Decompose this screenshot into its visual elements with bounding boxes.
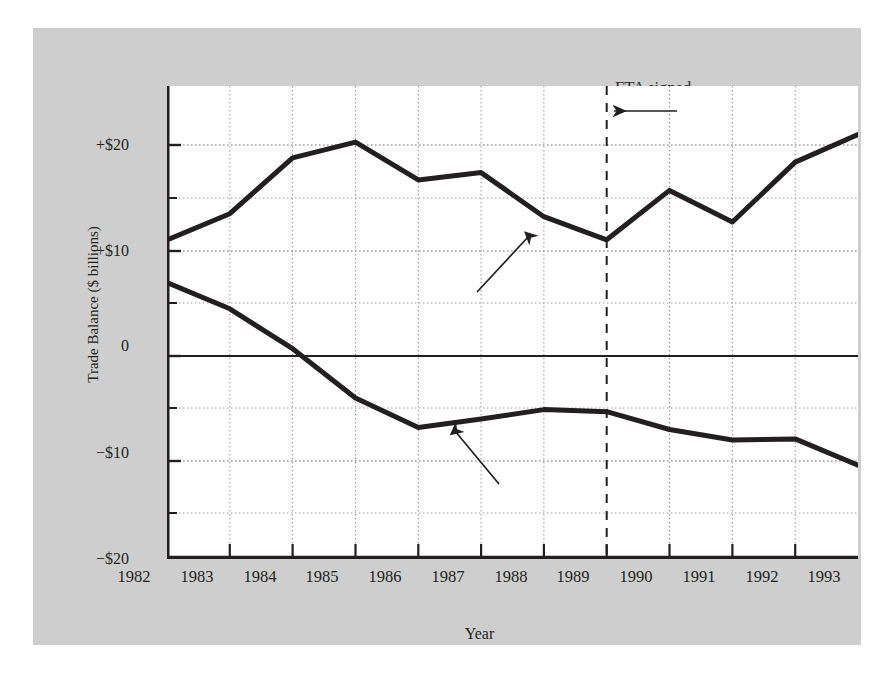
x-tick-label-1982: 1982 <box>103 567 165 587</box>
x-tick-label-1988: 1988 <box>480 567 542 587</box>
gridlines-vertical <box>230 86 795 559</box>
figure-panel: Trade Balance ($ billions) +$20 +$10 0 −… <box>33 28 861 645</box>
pointer-arrow-rest-of-world <box>455 431 499 484</box>
x-axis-label: Year <box>134 625 825 643</box>
x-tick-label-1993: 1993 <box>793 567 855 587</box>
trade-balance-figure: Trade Balance ($ billions) +$20 +$10 0 −… <box>0 0 889 674</box>
y-axis-label: Trade Balance ($ billions) <box>85 205 102 405</box>
x-tick-label-1989: 1989 <box>542 567 604 587</box>
x-tick-label-1984: 1984 <box>229 567 291 587</box>
x-tick-label-1986: 1986 <box>354 567 416 587</box>
x-tick-label-1990: 1990 <box>605 567 667 587</box>
y-tick-label-10pos: +$10 <box>65 242 129 260</box>
x-tick-label-1985: 1985 <box>291 567 353 587</box>
x-tick-label-1983: 1983 <box>166 567 228 587</box>
x-tick-label-1987: 1987 <box>417 567 479 587</box>
pointer-arrow-usa <box>477 236 529 292</box>
y-tick-label-20pos: +$20 <box>65 136 129 154</box>
x-tick-label-1992: 1992 <box>731 567 793 587</box>
y-tick-label-10neg: −$10 <box>65 444 129 462</box>
y-tick-label-20neg: −$20 <box>65 550 129 568</box>
figure-title <box>0 0 889 8</box>
series-polyline-usa <box>167 135 858 240</box>
series-line-trade-with-usa <box>167 86 858 559</box>
plot-area <box>167 86 858 559</box>
chart-svg <box>167 86 858 559</box>
gridlines-major-horizontal <box>167 145 858 558</box>
x-tick-label-1991: 1991 <box>668 567 730 587</box>
series-polyline-rest-of-world <box>167 283 858 466</box>
y-tick-label-zero: 0 <box>65 337 129 355</box>
